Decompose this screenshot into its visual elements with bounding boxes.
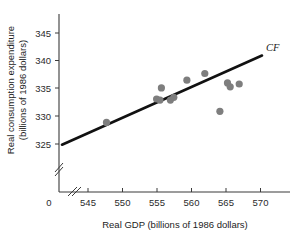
chart-canvas: 345 340 335 330 325 545 550 555 560 565 …	[0, 0, 297, 238]
y-axis-title-line1: Real consumption expenditure	[5, 26, 16, 154]
x-tick-label-560: 560	[184, 197, 200, 208]
x-tick-label-565: 565	[218, 197, 234, 208]
data-point	[103, 119, 110, 126]
origin-label: 0	[46, 197, 51, 208]
x-axis-title: Real GDP (billions of 1986 dollars)	[102, 219, 248, 230]
data-point	[183, 77, 190, 84]
data-point	[201, 70, 208, 77]
y-tick-label-345: 345	[35, 28, 51, 39]
y-tick-label-335: 335	[35, 83, 51, 94]
scatter-plot-figure: 345 340 335 330 325 545 550 555 560 565 …	[0, 0, 297, 238]
x-tick-label-555: 555	[149, 197, 165, 208]
data-point	[158, 84, 165, 91]
series-label-cf: CF	[266, 42, 280, 53]
data-point	[156, 97, 163, 104]
x-axis-ticks	[88, 188, 261, 192]
x-tick-label-545: 545	[80, 197, 96, 208]
data-point	[236, 80, 243, 87]
y-tick-label-340: 340	[35, 55, 51, 66]
x-tick-label-550: 550	[115, 197, 131, 208]
data-point	[227, 83, 234, 90]
y-tick-label-330: 330	[35, 111, 51, 122]
y-axis-ticks	[55, 33, 59, 144]
y-tick-label-325: 325	[35, 139, 51, 150]
data-point	[216, 108, 223, 115]
data-point	[170, 94, 177, 101]
y-axis-title-line2: (billions of 1986 dollars)	[17, 40, 28, 140]
x-tick-label-570: 570	[253, 197, 269, 208]
